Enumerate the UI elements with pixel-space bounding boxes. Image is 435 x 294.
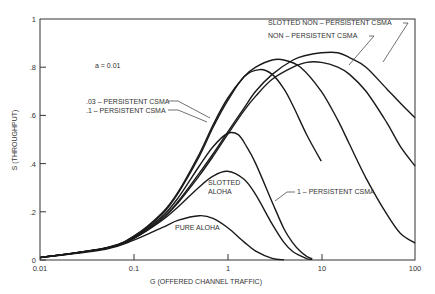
x-tick-label: 0.1 [129,264,139,273]
label-1-persistent-csma: 1 – PERSISTENT CSMA [297,188,375,195]
throughput-chart: 0 .2 .4 .6 .8 1 S (THROUGHPUT) 0.01 0.1 … [0,0,435,294]
x-tick-label: 1 [226,264,230,273]
label-nonpersistent: NON – PERSISTENT CSMA [268,32,358,39]
label-slotted-aloha-2: ALOHA [208,188,232,195]
y-tick-label: .6 [30,111,36,120]
label-03-persistent: .03 – PERSISTENT CSMA [86,98,170,105]
x-axis: 0.01 0.1 1 10 100 G (OFFERED CHANNEL TRA… [33,254,422,286]
plot-frame [40,19,415,260]
label-slotted-nonpersistent: SLOTTED NON – PERSISTENT CSMA [268,19,392,26]
y-tick-label: .4 [30,160,36,169]
y-tick-label: .8 [30,63,36,72]
leader-lines [168,23,408,201]
label-slotted-aloha: SLOTTED [208,179,240,186]
y-tick-label: 1 [32,15,36,24]
curve-slotted-aloha [40,171,312,259]
y-axis: 0 .2 .4 .6 .8 1 S (THROUGHPUT) [11,15,46,265]
param-annotation: a = 0.01 [95,62,121,69]
y-axis-label: S (THROUGHPUT) [11,110,19,171]
x-tick-label: 100 [409,264,422,273]
x-axis-label: G (OFFERED CHANNEL TRAFFIC) [150,278,262,286]
y-tick-label: .2 [30,208,36,217]
x-tick-label: 10 [318,264,326,273]
label-pure-aloha: PURE ALOHA [175,224,220,231]
curves-group [40,52,415,260]
x-tick-label: 0.01 [33,264,48,273]
label-1-persistent: .1 – PERSISTENT CSMA [86,107,166,114]
